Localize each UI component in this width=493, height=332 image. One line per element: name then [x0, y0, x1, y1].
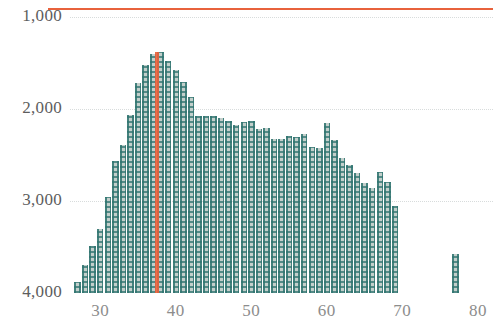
histogram-bar [301, 134, 307, 293]
histogram-bar [173, 70, 179, 293]
histogram-bar [293, 137, 299, 293]
histogram-bar [286, 136, 292, 293]
plot-area [70, 8, 493, 293]
histogram-bar [241, 122, 247, 293]
x-tick-label: 70 [382, 301, 422, 321]
histogram-bar [324, 123, 330, 293]
histogram-bar [361, 183, 367, 293]
histogram-bar [233, 125, 239, 293]
vertical-marker-line [155, 52, 159, 293]
histogram-bars [70, 8, 493, 293]
x-tick-label: 30 [80, 301, 120, 321]
histogram-bar [369, 188, 375, 293]
histogram-bar [210, 116, 216, 293]
histogram-bar [203, 116, 209, 293]
histogram-bar [105, 197, 111, 293]
histogram-bar [74, 282, 80, 293]
histogram-bar [165, 61, 171, 293]
histogram-bar [248, 121, 254, 293]
histogram-bar [180, 82, 186, 293]
histogram-bar [188, 97, 194, 293]
histogram-bar [346, 165, 352, 293]
histogram-bar [309, 147, 315, 293]
histogram-bar [354, 173, 360, 293]
histogram-bar [82, 265, 88, 293]
histogram-bar [112, 161, 118, 293]
histogram-bar [218, 118, 224, 293]
x-tick-label: 50 [231, 301, 271, 321]
x-tick-label: 60 [307, 301, 347, 321]
histogram-bar [392, 206, 398, 293]
x-tick-label: 80 [458, 301, 493, 321]
histogram-bar [256, 129, 262, 293]
histogram-bar [225, 121, 231, 293]
histogram-bar [278, 139, 284, 293]
histogram-bar [97, 229, 103, 293]
histogram-bar [89, 246, 95, 293]
y-tick-label: 4,000 [0, 282, 62, 302]
axis-baseline [48, 8, 493, 10]
histogram-bar [316, 148, 322, 293]
histogram-bar [331, 140, 337, 293]
histogram-chart: 1,0002,0003,0004,000 304050607080 [0, 0, 493, 332]
histogram-bar [377, 172, 383, 293]
histogram-bar [120, 145, 126, 293]
histogram-bar [263, 128, 269, 293]
histogram-bar [271, 139, 277, 293]
histogram-bar [339, 158, 345, 293]
y-tick-label: 3,000 [0, 190, 62, 210]
histogram-bar [384, 182, 390, 293]
histogram-bar [127, 115, 133, 293]
histogram-bar [195, 116, 201, 293]
x-tick-label: 40 [156, 301, 196, 321]
histogram-bar [452, 254, 458, 293]
histogram-bar [142, 65, 148, 293]
y-tick-label: 2,000 [0, 98, 62, 118]
histogram-bar [135, 83, 141, 293]
